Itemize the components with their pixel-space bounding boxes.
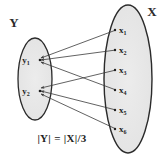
node-dot-x1 — [114, 29, 116, 31]
node-dot-x2 — [114, 49, 116, 51]
node-dot-y2 — [39, 90, 42, 93]
node-dot-x3 — [114, 69, 116, 71]
codomain-set-label: X — [147, 4, 157, 19]
node-label-y2-sub: 2 — [27, 91, 30, 97]
node-label-x1-sub: 1 — [124, 30, 127, 36]
node-label-x3-sub: 3 — [124, 70, 127, 76]
node-dot-x4 — [114, 89, 116, 91]
codomain-set-group — [104, 5, 152, 153]
cardinality-formula: |Y| = |X|/3 — [37, 132, 86, 144]
node-label-x5-sub: 5 — [124, 110, 127, 116]
set-mapping-diagram: Y X y1 y2 x1 x2 x3 x4 — [0, 0, 168, 158]
node-label-x4-sub: 4 — [124, 90, 127, 96]
node-dot-y1 — [39, 59, 42, 62]
domain-set-group — [18, 38, 52, 120]
node-dot-x6 — [114, 128, 116, 130]
node-dot-x5 — [114, 109, 116, 111]
node-label-y1-sub: 1 — [27, 60, 30, 66]
codomain-set-ellipse — [104, 5, 152, 153]
node-label-x6-sub: 6 — [124, 129, 127, 135]
node-label-x2-sub: 2 — [124, 50, 127, 56]
domain-set-label: Y — [9, 15, 19, 30]
figure-canvas: Y X y1 y2 x1 x2 x3 x4 — [0, 0, 168, 158]
domain-set-ellipse — [18, 38, 52, 120]
